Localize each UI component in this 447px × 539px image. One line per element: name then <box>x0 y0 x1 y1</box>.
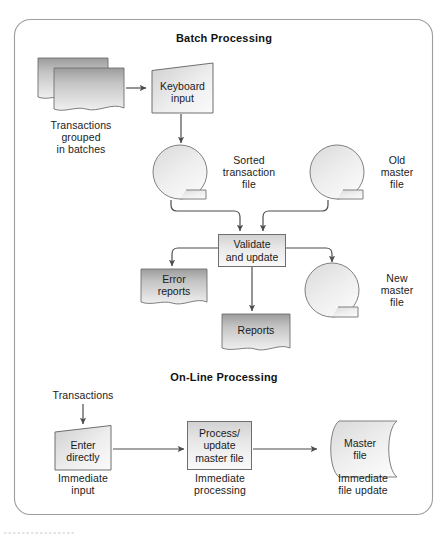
enter-directly-caption: Immediate input <box>38 473 128 497</box>
online-processing-title: On-Line Processing <box>124 371 324 383</box>
sorted-transaction-file-caption: Sorted transaction file <box>210 155 288 190</box>
keyboard-input-label: Keyboard input <box>152 72 213 112</box>
new-master-file-shape <box>305 263 359 317</box>
process-update-caption: Immediate processing <box>175 473 265 497</box>
validate-and-update-label: Validate and update <box>218 235 286 266</box>
old-master-file-shape <box>310 145 364 199</box>
master-file-label: Master file <box>332 432 388 466</box>
old-master-file-caption: Old master file <box>366 155 428 190</box>
new-master-file-caption: New master file <box>364 273 430 308</box>
transactions-document-front <box>54 68 124 110</box>
error-reports-label: Error reports <box>141 270 207 300</box>
reports-label: Reports <box>222 316 290 344</box>
enter-directly-label: Enter directly <box>55 434 111 468</box>
batch-processing-title: Batch Processing <box>124 32 324 44</box>
online-transactions-label: Transactions <box>40 390 126 402</box>
sorted-transaction-file-shape <box>153 145 207 199</box>
transactions-stack-caption: Transactions grouped in batches <box>21 120 141 155</box>
master-file-caption: Immediate file update <box>315 473 411 497</box>
process-update-label: Process/ update master file <box>186 422 253 469</box>
figure-canvas: Batch Processing Transactions grouped in… <box>0 0 447 539</box>
